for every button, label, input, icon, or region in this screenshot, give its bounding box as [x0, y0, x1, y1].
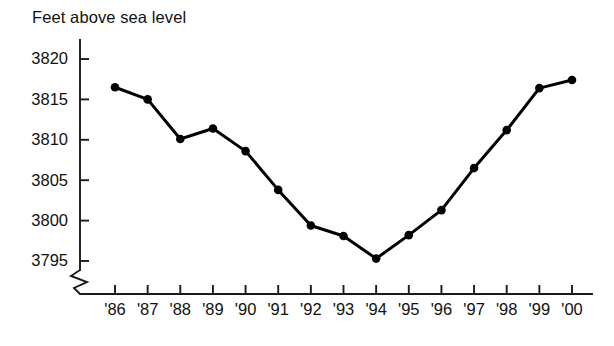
y-axis-tick-label: 3820 [31, 49, 68, 67]
x-axis-tick-label: '94 [365, 300, 387, 318]
x-axis-tick-label: '87 [137, 300, 159, 318]
line-chart: Feet above sea level 3795380038053810381… [0, 0, 614, 346]
data-point [470, 164, 479, 173]
x-axis-tick-label: '89 [202, 300, 224, 318]
x-axis-tick-label: '99 [529, 300, 551, 318]
data-point [372, 254, 381, 263]
data-point [143, 95, 152, 104]
y-axis-tick-label: 3805 [31, 171, 68, 189]
data-point [209, 124, 218, 133]
x-axis-tick-label: '88 [170, 300, 192, 318]
x-axis-tick-label: '97 [463, 300, 485, 318]
x-axis-tick-label: '95 [398, 300, 420, 318]
data-point [307, 221, 316, 230]
data-point [111, 83, 120, 92]
data-point [502, 126, 511, 135]
axis-break-zigzag-icon [71, 270, 87, 294]
x-axis-tick-group: '86'87'88'89'90'91'92'93'94'95'96'97'98'… [104, 285, 583, 318]
data-point [241, 147, 250, 156]
y-axis-tick-label: 3810 [31, 130, 68, 148]
y-axis-tick-label: 3795 [31, 251, 68, 269]
data-point [535, 84, 544, 93]
data-point [568, 76, 577, 85]
y-axis-title: Feet above sea level [32, 8, 186, 27]
x-axis-tick-label: '00 [561, 300, 583, 318]
data-point [339, 232, 348, 241]
chart-plot-area: 379538003805381038153820 '86'87'88'89'90… [0, 0, 614, 346]
x-axis-tick-label: '91 [267, 300, 289, 318]
data-point-markers [111, 76, 577, 263]
y-axis-tick-label: 3815 [31, 90, 68, 108]
x-axis-tick-label: '92 [300, 300, 322, 318]
x-axis-tick-label: '96 [431, 300, 453, 318]
data-point [437, 206, 446, 215]
x-axis-tick-label: '98 [496, 300, 518, 318]
x-axis-tick-label: '90 [235, 300, 257, 318]
data-point [176, 135, 185, 144]
data-point [404, 231, 413, 240]
y-axis-tick-label: 3800 [31, 211, 68, 229]
x-axis-tick-label: '86 [104, 300, 126, 318]
data-point [274, 186, 283, 195]
x-axis-tick-label: '93 [333, 300, 355, 318]
